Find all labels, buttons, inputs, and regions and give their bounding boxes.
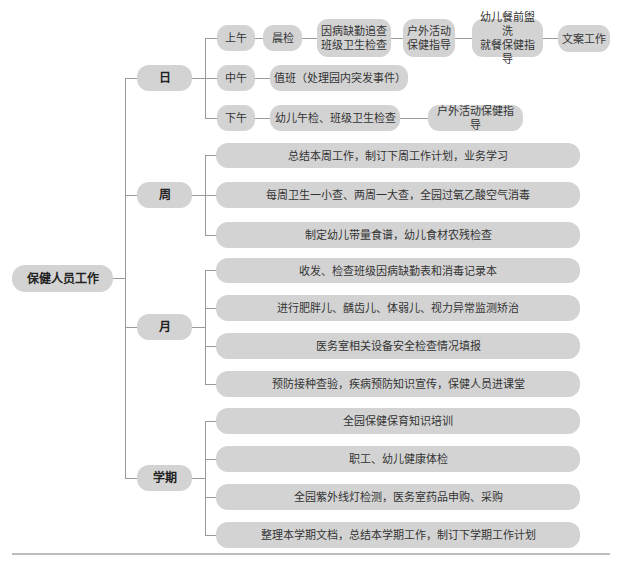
connector-line [205,421,216,422]
connector-line [205,270,216,271]
monthly-task: 医务室相关设备安全检查情况填报 [216,333,580,359]
mind-map-canvas: 保健人员工作 日 上午 晨检 因病缺勤追查 班级卫生检查 户外活动 保健指导 幼… [0,0,622,566]
connector-line [192,327,205,328]
monthly-branch-line [205,270,206,385]
weekly-task: 制定幼儿带量食谱，幼儿食材农残检查 [216,222,580,248]
connector-line [205,535,216,536]
connector-line [205,118,217,119]
monthly-task: 预防接种查验，疾病预防知识宣传，保健人员进课堂 [216,371,580,397]
task-absence-hygiene-check: 因病缺勤追查 班级卫生检查 [317,19,391,57]
period-noon: 中午 [217,65,255,91]
weekly-task: 每周卫生一小查、两周一大查，全园过氧乙酸空气消毒 [216,182,580,208]
task-meal-guidance: 幼儿餐前盥洗 就餐保健指导 [472,19,543,57]
task-morning-check: 晨检 [263,25,302,51]
connector-line [205,346,216,347]
connector-line [192,195,205,196]
connector-line [205,459,216,460]
connector-line [125,327,137,328]
semester-task: 全园保健保育知识培训 [216,408,580,434]
connector-line [125,478,137,479]
semester-branch-line [205,421,206,536]
monthly-task: 进行肥胖儿、龋齿儿、体弱儿、视力异常监测矫治 [216,295,580,321]
weekly-task: 总结本周工作，制订下周工作计划，业务学习 [216,143,580,168]
category-semester: 学期 [137,465,192,491]
connector-line [192,78,205,79]
connector-line [205,308,216,309]
task-afternoon-check: 幼儿午检、班级卫生检查 [270,105,400,131]
category-daily: 日 [137,65,192,91]
connector-line [255,118,270,119]
category-weekly: 周 [137,182,192,208]
connector-line [391,38,403,39]
semester-task: 全园紫外线灯检测，医务室药品申购、采购 [216,484,580,510]
period-afternoon: 下午 [217,105,255,131]
connector-line [205,384,216,385]
connector-line [192,478,205,479]
connector-line [543,38,558,39]
connector-line [205,195,216,196]
connector-line [125,195,137,196]
task-paperwork: 文案工作 [558,25,610,52]
connector-line [205,78,217,79]
category-monthly: 月 [137,314,192,340]
connector-line [113,278,125,279]
connector-line [255,38,263,39]
root-node: 保健人员工作 [12,265,113,292]
semester-task: 整理本学期文档，总结本学期工作，制订下学期工作计划 [216,522,580,548]
monthly-task: 收发、检查班级因病缺勤表和消毒记录本 [216,258,580,283]
connector-line [302,38,317,39]
main-spine-line [125,78,126,479]
task-on-duty: 值班（处理园内突发事件） [270,65,408,91]
connector-line [255,78,270,79]
task-outdoor-guidance: 户外活动 保健指导 [403,19,455,57]
connector-line [205,155,216,156]
connector-line [455,38,472,39]
connector-line [205,235,216,236]
connector-line [400,118,428,119]
connector-line [205,497,216,498]
task-outdoor-guidance-afternoon: 户外活动保健指导 [428,105,523,131]
connector-line [205,38,217,39]
connector-line [125,78,137,79]
period-morning: 上午 [217,25,255,51]
bottom-divider [12,553,610,555]
semester-task: 职工、幼儿健康体检 [216,446,580,472]
